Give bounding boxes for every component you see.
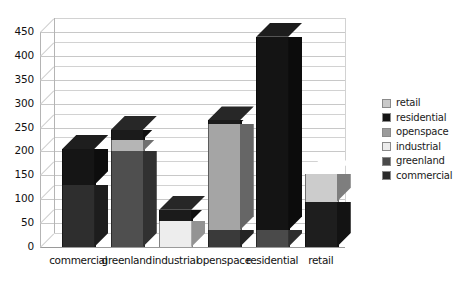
legend-label-commercial: commercial: [396, 170, 452, 182]
bar-segment-residential-residential[interactable]: [256, 37, 288, 231]
legend-item-residential[interactable]: residential: [382, 111, 460, 125]
segment-side-face: [288, 230, 302, 247]
bar-segment-openspace-residential[interactable]: [208, 120, 240, 123]
segment-top-face: [159, 196, 205, 210]
y-tick-150: 150: [0, 169, 34, 179]
y-tick-400: 400: [0, 50, 34, 60]
legend-swatch-openspace: [382, 128, 391, 137]
axis-depth-rung-200: [40, 138, 54, 152]
segment-front-face: [159, 221, 193, 247]
segment-side-face: [288, 37, 302, 231]
axis-back-edge: [54, 18, 55, 233]
legend-item-retail[interactable]: retail: [382, 96, 460, 110]
segment-side-face: [240, 230, 254, 247]
bar-segment-retail-commercial[interactable]: [305, 202, 337, 247]
y-tick-300: 300: [0, 98, 34, 108]
y-tick-250: 250: [0, 122, 34, 132]
segment-front-face: [62, 185, 96, 247]
bar-segment-greenland-residential[interactable]: [111, 130, 143, 140]
bar-segment-retail-retail[interactable]: [305, 174, 337, 201]
segment-side-face: [143, 140, 157, 152]
segment-front-face: [111, 140, 145, 152]
legend-item-commercial[interactable]: commercial: [382, 169, 460, 183]
bar-commercial[interactable]: [62, 18, 94, 247]
segment-front-face: [305, 202, 339, 247]
bar-segment-greenland-greenland[interactable]: [111, 151, 143, 247]
segment-front-face: [159, 210, 193, 221]
segment-side-face: [191, 221, 205, 247]
segment-front-face: [111, 130, 145, 140]
segment-top-face: [305, 160, 351, 174]
segment-side-face: [143, 151, 157, 247]
x-tick-retail: retail: [286, 254, 356, 266]
legend-swatch-residential: [382, 113, 391, 122]
legend-item-greenland[interactable]: greenland: [382, 154, 460, 168]
legend-label-greenland: greenland: [396, 155, 445, 167]
legend-label-retail: retail: [396, 97, 420, 109]
bar-segment-openspace-commercial[interactable]: [208, 230, 240, 247]
y-tick-350: 350: [0, 74, 34, 84]
y-tick-50: 50: [0, 217, 34, 227]
legend-item-industrial[interactable]: industrial: [382, 140, 460, 154]
axis-depth-rung-250: [40, 114, 54, 128]
segment-front-face: [208, 230, 242, 247]
bar-segment-residential-greenland[interactable]: [256, 230, 288, 247]
y-tick-200: 200: [0, 145, 34, 155]
segment-top-face: [256, 23, 302, 37]
segment-side-face: [94, 185, 108, 247]
segment-side-face: [94, 149, 108, 185]
legend-swatch-retail: [382, 99, 391, 108]
axis-depth-rung-300: [40, 90, 54, 104]
bar-segment-commercial-residential[interactable]: [62, 149, 94, 185]
bar-segment-industrial-industrial[interactable]: [159, 221, 191, 247]
y-tick-100: 100: [0, 193, 34, 203]
y-tick-0: 0: [0, 241, 34, 251]
axis-side-wall: [40, 18, 54, 247]
segment-side-face: [191, 210, 205, 221]
bar-industrial[interactable]: [159, 18, 191, 247]
legend-swatch-commercial: [382, 171, 391, 180]
segment-front-face: [256, 37, 290, 231]
axis-depth-rung-150: [40, 162, 54, 176]
plot-area: [40, 18, 345, 247]
bar-greenland[interactable]: [111, 18, 143, 247]
segment-side-face: [337, 174, 351, 201]
axis-depth-rung-50: [40, 210, 54, 224]
bar-segment-industrial-residential[interactable]: [159, 210, 191, 221]
legend-item-openspace[interactable]: openspace: [382, 125, 460, 139]
legend-swatch-greenland: [382, 157, 391, 166]
axis-depth-rung-450: [40, 19, 54, 33]
segment-front-face: [256, 230, 290, 247]
legend-swatch-industrial: [382, 142, 391, 151]
axis-depth-rung-350: [40, 66, 54, 80]
segment-side-face: [337, 202, 351, 247]
bar-segment-greenland-openspace[interactable]: [111, 140, 143, 152]
axis-depth-rung-0: [40, 234, 54, 248]
segment-side-face: [240, 124, 254, 231]
bar-retail[interactable]: [305, 18, 337, 247]
bar-residential[interactable]: [256, 18, 288, 247]
segment-front-face: [208, 120, 242, 123]
segment-front-face: [111, 151, 145, 247]
axis-depth-rung-100: [40, 186, 54, 200]
legend-label-industrial: industrial: [396, 141, 441, 153]
chart-legend: retailresidentialopenspaceindustrialgree…: [382, 96, 460, 183]
bar-segment-commercial-commercial[interactable]: [62, 185, 94, 247]
segment-top-face: [62, 135, 108, 149]
gridline-back-450: [54, 18, 345, 19]
gridline-0: [40, 247, 345, 248]
segment-front-face: [62, 149, 96, 185]
bar-openspace[interactable]: [208, 18, 240, 247]
bar-segment-openspace-openspace[interactable]: [208, 124, 240, 231]
segment-front-face: [305, 174, 339, 201]
y-tick-450: 450: [0, 26, 34, 36]
legend-label-openspace: openspace: [396, 126, 449, 138]
segment-front-face: [208, 124, 242, 231]
legend-label-residential: residential: [396, 112, 446, 124]
axis-depth-rung-400: [40, 42, 54, 56]
chart-root: 450400350300250200150100500 commercialgr…: [0, 0, 460, 281]
